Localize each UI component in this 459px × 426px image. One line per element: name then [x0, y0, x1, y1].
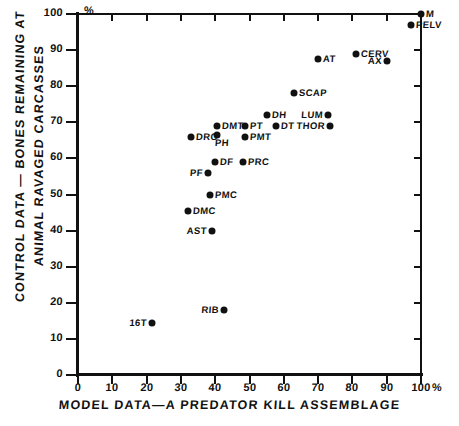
- y-tick-label: 0: [21, 367, 64, 379]
- y-tick-mark: [66, 230, 78, 232]
- data-point-label: DMT: [222, 120, 245, 131]
- chart-root: % % 0102030405060708090100 0102030405060…: [0, 0, 459, 426]
- y-tick-mark: [66, 85, 78, 87]
- data-point: [212, 159, 219, 166]
- data-point: [239, 159, 246, 166]
- data-point: [407, 21, 414, 28]
- data-point: [352, 50, 359, 57]
- data-point: [148, 319, 155, 326]
- data-point: [263, 112, 270, 119]
- data-point: [291, 90, 298, 97]
- data-point-label: THOR: [296, 120, 325, 131]
- data-point: [188, 133, 195, 140]
- scatter-points-layer: MPELVCERVAXATSCAPLUMDHTHORDTPTDMTPHPMTDR…: [78, 14, 421, 375]
- data-point: [213, 122, 220, 129]
- data-point: [325, 112, 332, 119]
- data-point-label: DT: [281, 120, 295, 131]
- y-tick-mark: [66, 338, 78, 340]
- data-point-label: M: [426, 8, 435, 19]
- x-axis-title: MODEL DATA—A PREDATOR KILL ASSEMBLAGE: [0, 398, 459, 412]
- data-point-label: SCAP: [299, 87, 328, 98]
- y-axis-title-line-2: ANIMAL RAVAGED CARCASSES: [30, 45, 49, 267]
- data-point-label: DMC: [192, 205, 216, 216]
- y-axis-title: CONTROL DATA — BONES REMAINING AT ANIMAL…: [7, 0, 53, 346]
- y-tick-mark: [66, 266, 78, 268]
- data-point-label: DF: [220, 156, 234, 167]
- data-point: [315, 56, 322, 63]
- data-point-label: RIB: [201, 304, 219, 315]
- data-point: [205, 169, 212, 176]
- data-point: [207, 191, 214, 198]
- data-point-label: PMT: [250, 131, 272, 142]
- data-point-label: PRC: [247, 156, 269, 167]
- data-point: [242, 133, 249, 140]
- data-point: [220, 307, 227, 314]
- y-tick-mark: [66, 194, 78, 196]
- data-point-label: AST: [186, 225, 207, 236]
- data-point-label: PF: [190, 167, 204, 178]
- y-tick-mark: [66, 13, 78, 15]
- data-point: [184, 208, 191, 215]
- data-point-label: AT: [323, 53, 337, 64]
- x-tick-label: 100: [401, 381, 442, 393]
- data-point-label: DRC: [196, 131, 219, 142]
- data-point-label: PELV: [415, 19, 441, 30]
- data-point-label: AX: [367, 55, 382, 66]
- y-tick-mark: [66, 121, 78, 123]
- data-point: [327, 122, 334, 129]
- data-point: [208, 227, 215, 234]
- data-point-label: 16T: [129, 317, 147, 328]
- data-point-label: PT: [250, 120, 264, 131]
- data-point-label: LUM: [301, 109, 324, 120]
- data-point-label: PMC: [215, 189, 238, 200]
- data-point: [383, 57, 390, 64]
- y-tick-mark: [66, 157, 78, 159]
- data-point-label: DH: [271, 109, 286, 120]
- data-point: [272, 122, 279, 129]
- y-tick-mark: [66, 49, 78, 51]
- y-axis-title-line-1: CONTROL DATA — BONES REMAINING AT: [11, 10, 30, 303]
- y-tick-mark: [66, 302, 78, 304]
- data-point: [418, 11, 425, 18]
